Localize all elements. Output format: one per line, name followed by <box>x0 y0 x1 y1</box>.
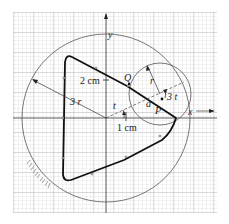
a-label: a <box>146 98 151 109</box>
one-cm-label: 1 cm <box>117 122 137 133</box>
t-label: t <box>113 100 116 111</box>
point-p <box>161 98 164 101</box>
q-label: Q <box>124 72 132 83</box>
two-cm-label: 2 cm <box>80 75 100 86</box>
three-r-label: 3 r <box>69 96 82 107</box>
r-label: r <box>150 75 154 86</box>
point-q <box>128 83 130 85</box>
graph-paper-grid <box>13 12 217 213</box>
p-label: P <box>154 105 161 116</box>
hypocycloid-diagram: y x <box>0 0 229 224</box>
three-t-label: 3 t <box>166 91 178 102</box>
